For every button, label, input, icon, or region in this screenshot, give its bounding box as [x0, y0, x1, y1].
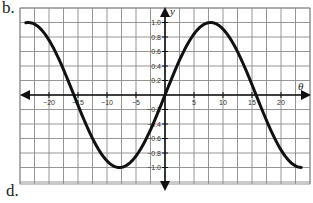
y-tick-label: 0.4: [151, 63, 161, 70]
x-tick-label: 5: [192, 99, 196, 106]
x-tick-label: 15: [248, 99, 256, 106]
x-tick-label: −10: [101, 99, 113, 106]
y-tick-label: −0.8: [147, 150, 161, 157]
x-tick-label: −5: [132, 99, 140, 106]
y-tick-label: −1.0: [147, 164, 161, 171]
x-tick-label: 10: [219, 99, 227, 106]
y-tick-label: 0.8: [151, 34, 161, 41]
arrow-left-icon: [20, 90, 30, 100]
arrow-up-icon: [160, 7, 170, 17]
sine-graph: −20−15−10−551015201.00.80.60.40.2−0.2−0.…: [0, 0, 313, 203]
x-tick-label: 20: [277, 99, 285, 106]
y-axis-label: y: [169, 5, 175, 17]
tick-labels: −20−15−10−551015201.00.80.60.40.2−0.2−0.…: [43, 5, 304, 171]
x-axis-label: θ: [298, 80, 304, 92]
y-tick-label: 0.6: [151, 48, 161, 55]
arrow-down-icon: [160, 181, 170, 191]
y-tick-label: 1.0: [151, 19, 161, 26]
y-tick-label: 0.2: [151, 77, 161, 84]
x-tick-label: −20: [43, 99, 55, 106]
y-tick-label: −0.6: [147, 135, 161, 142]
